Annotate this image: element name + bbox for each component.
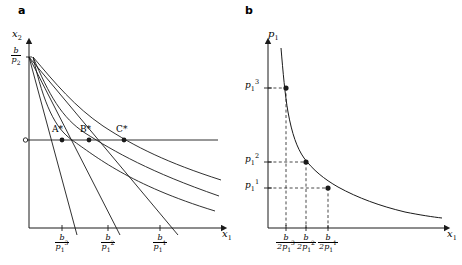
figure-container: a x2 x1 — [0, 0, 462, 265]
panel-a-y-axis-label: x2 — [12, 28, 22, 39]
demand-point-3 — [283, 85, 288, 90]
panel-b-x-axis-label: x1 — [447, 228, 457, 239]
indifference-curve-high — [33, 57, 221, 180]
point-c-star — [122, 138, 127, 143]
panel-b-ytick-label-1: p11 — [245, 180, 259, 190]
panel-a-x-axis-label: x1 — [222, 228, 232, 239]
label-b-star: B* — [80, 124, 91, 134]
demand-curve — [281, 48, 442, 218]
panel-a-xtick-label-1: b p13 — [52, 234, 72, 252]
panel-b-ytick-label-2: p12 — [245, 154, 259, 164]
point-a-star — [60, 138, 65, 143]
panel-b-ytick-label-3: p13 — [245, 80, 259, 90]
origin-open-circle — [23, 138, 27, 142]
panel-a-ytick-label-1: b p2 — [8, 47, 24, 65]
budget-line-1 — [29, 57, 178, 235]
panel-b-y-axis-label: p1 — [268, 28, 279, 39]
indifference-curve-low — [33, 57, 215, 211]
panel-a-xtick-label-3: b p11 — [150, 234, 170, 252]
label-a-star: A* — [52, 124, 63, 134]
demand-point-1 — [325, 185, 330, 190]
point-b-star — [87, 138, 92, 143]
demand-point-2 — [303, 159, 308, 164]
budget-line-3 — [29, 57, 77, 235]
panel-a-xtick-label-2: b p12 — [98, 234, 118, 252]
panel-b-xtick-label-3: b 2p11 — [315, 234, 341, 252]
label-c-star: C* — [116, 124, 127, 134]
